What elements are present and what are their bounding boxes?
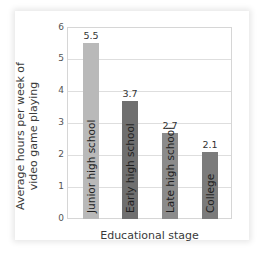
bar-junior-high-school: Junior high school <box>83 43 99 219</box>
bar-category-label: Early high school <box>124 123 136 213</box>
value-label-early: 3.7 <box>115 88 145 99</box>
x-axis-title: Educational stage <box>67 229 232 242</box>
bar-category-label: Junior high school <box>85 120 97 213</box>
bar-late-high-school: Late high school <box>162 133 178 219</box>
y-tick-5: 5 <box>50 53 64 63</box>
y-axis-title: Average hours per week of video game pla… <box>14 36 40 236</box>
bar-category-label: Late high school <box>164 127 176 213</box>
y-tick-3: 3 <box>50 117 64 127</box>
y-axis-title-line-2: video game playing <box>27 36 40 236</box>
y-tick-6: 6 <box>50 22 64 32</box>
bar-college: College <box>202 152 218 219</box>
value-label-junior: 5.5 <box>76 30 106 41</box>
y-tick-4: 4 <box>50 85 64 95</box>
value-label-late: 2.7 <box>155 120 185 131</box>
y-tick-1: 1 <box>50 181 64 191</box>
y-axis-title-line-1: Average hours per week of <box>14 36 27 236</box>
bar-early-high-school: Early high school <box>122 101 138 219</box>
value-label-college: 2.1 <box>195 139 225 150</box>
bar-category-label: College <box>204 174 216 213</box>
y-tick-2: 2 <box>50 149 64 159</box>
y-tick-0: 0 <box>50 213 64 223</box>
